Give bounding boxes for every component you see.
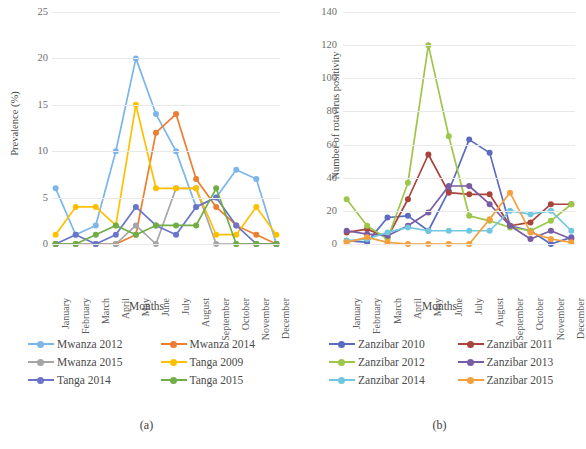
data-point bbox=[93, 232, 99, 238]
legend-item[interactable]: Tanga 2009 bbox=[161, 356, 294, 368]
data-point bbox=[487, 228, 493, 234]
y-tick-label: 120 bbox=[311, 40, 337, 50]
legend-marker-icon bbox=[329, 339, 355, 349]
data-point bbox=[568, 201, 574, 207]
grid-line bbox=[52, 105, 280, 106]
legend-item[interactable]: Zanzibar 2011 bbox=[458, 338, 586, 350]
y-tick-label: 20 bbox=[22, 53, 48, 63]
grid-line bbox=[52, 58, 280, 59]
legend-item[interactable]: Mwanza 2015 bbox=[28, 356, 161, 368]
data-point bbox=[527, 229, 533, 235]
x-axis-ticks-b: JanuaryFebruaryMarchAprilMayJuneJulyAugu… bbox=[343, 246, 575, 302]
legend-marker-icon bbox=[161, 375, 187, 385]
data-point bbox=[405, 180, 411, 186]
legend-item[interactable]: Mwanza 2014 bbox=[161, 338, 294, 350]
legend-label: Tanga 2009 bbox=[190, 356, 244, 368]
x-axis-ticks-a: JanuaryFebruaryMarchAprilMayJuneJulyAugu… bbox=[52, 246, 280, 302]
data-point bbox=[233, 222, 239, 228]
legend-item[interactable]: Zanzibar 2010 bbox=[329, 338, 458, 350]
data-point bbox=[193, 204, 199, 210]
data-point bbox=[446, 190, 452, 196]
grid-line bbox=[343, 211, 575, 212]
grid-line bbox=[52, 151, 280, 152]
data-point bbox=[548, 218, 554, 224]
legend-marker-icon bbox=[28, 375, 54, 385]
data-point bbox=[487, 216, 493, 222]
legend-a: Mwanza 2012Mwanza 2014Mwanza 2015Tanga 2… bbox=[0, 338, 293, 386]
legend-label: Zanzibar 2015 bbox=[487, 374, 554, 386]
data-point bbox=[173, 111, 179, 117]
data-point bbox=[405, 213, 411, 219]
y-tick-label: 5 bbox=[22, 193, 48, 203]
data-point bbox=[173, 185, 179, 191]
data-point bbox=[425, 228, 431, 234]
data-point bbox=[548, 236, 554, 242]
data-point bbox=[548, 201, 554, 207]
grid-line bbox=[343, 178, 575, 179]
data-point bbox=[193, 185, 199, 191]
grid-line bbox=[52, 244, 280, 245]
caption-a: (a) bbox=[0, 418, 293, 433]
data-point bbox=[213, 204, 219, 210]
data-point bbox=[527, 219, 533, 225]
data-point bbox=[73, 204, 79, 210]
y-tick-label: 140 bbox=[311, 7, 337, 17]
data-point bbox=[53, 185, 59, 191]
y-tick-label: 10 bbox=[22, 146, 48, 156]
legend-label: Mwanza 2015 bbox=[57, 356, 122, 368]
data-point bbox=[73, 232, 79, 238]
legend-marker-icon bbox=[329, 357, 355, 367]
data-point bbox=[507, 223, 513, 229]
legend-label: Zanzibar 2010 bbox=[358, 338, 425, 350]
panel-a: Prevalence (%) 0510152025 JanuaryFebruar… bbox=[0, 0, 293, 449]
data-point bbox=[466, 191, 472, 197]
data-point bbox=[487, 150, 493, 156]
data-point bbox=[173, 222, 179, 228]
data-point bbox=[507, 190, 513, 196]
grid-line bbox=[343, 244, 575, 245]
legend-item[interactable]: Mwanza 2012 bbox=[28, 338, 161, 350]
data-point bbox=[153, 111, 159, 117]
legend-label: Zanzibar 2011 bbox=[487, 338, 553, 350]
legend-marker-icon bbox=[161, 339, 187, 349]
data-point bbox=[113, 222, 119, 228]
legend-item[interactable]: Zanzibar 2012 bbox=[329, 356, 458, 368]
data-point bbox=[487, 201, 493, 207]
data-point bbox=[466, 137, 472, 143]
legend-item[interactable]: Zanzibar 2015 bbox=[458, 374, 586, 386]
data-point bbox=[53, 232, 59, 238]
data-point bbox=[425, 152, 431, 158]
data-point bbox=[446, 183, 452, 189]
y-tick-label: 25 bbox=[22, 7, 48, 17]
plot-area-a bbox=[52, 12, 280, 244]
data-point bbox=[405, 224, 411, 230]
legend-label: Zanzibar 2013 bbox=[487, 356, 554, 368]
data-point bbox=[133, 222, 139, 228]
data-point bbox=[213, 185, 219, 191]
legend-label: Mwanza 2012 bbox=[57, 338, 122, 350]
data-point bbox=[113, 232, 119, 238]
legend-item[interactable]: Zanzibar 2014 bbox=[329, 374, 458, 386]
legend-marker-icon bbox=[458, 357, 484, 367]
data-point bbox=[466, 213, 472, 219]
y-tick-label: 0 bbox=[311, 239, 337, 249]
legend-item[interactable]: Tanga 2014 bbox=[28, 374, 161, 386]
grid-line bbox=[52, 198, 280, 199]
y-tick-label: 40 bbox=[311, 173, 337, 183]
data-point bbox=[405, 196, 411, 202]
data-point bbox=[385, 214, 391, 220]
data-point bbox=[253, 176, 259, 182]
legend-marker-icon bbox=[458, 339, 484, 349]
series-mwanza-2015 bbox=[53, 185, 280, 247]
data-point bbox=[446, 228, 452, 234]
caption-b: (b) bbox=[293, 418, 586, 433]
legend-item[interactable]: Zanzibar 2013 bbox=[458, 356, 586, 368]
data-point bbox=[466, 183, 472, 189]
data-point bbox=[213, 232, 219, 238]
data-point bbox=[548, 228, 554, 234]
grid-line bbox=[52, 12, 280, 13]
legend-item[interactable]: Tanga 2015 bbox=[161, 374, 294, 386]
y-tick-label: 100 bbox=[311, 73, 337, 83]
data-point bbox=[153, 130, 159, 136]
data-point bbox=[133, 232, 139, 238]
